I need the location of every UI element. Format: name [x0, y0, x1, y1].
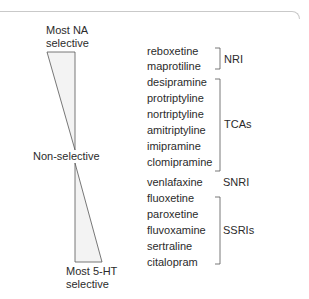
- class-label-snri: SNRI: [223, 176, 249, 189]
- class-label-ssris: SSRIs: [223, 224, 254, 237]
- drug-item: amitriptyline: [147, 124, 206, 137]
- ssri-bracket: [215, 197, 220, 264]
- non-selective-label: Non-selective: [33, 150, 100, 163]
- drug-item: nortriptyline: [147, 108, 204, 121]
- drug-item: fluvoxamine: [147, 224, 206, 237]
- drug-item: desipramine: [147, 76, 207, 89]
- nri-bracket: [215, 48, 220, 69]
- drug-item: sertraline: [147, 240, 192, 253]
- drug-item: protriptyline: [147, 92, 204, 105]
- drug-item: fluoxetine: [147, 192, 194, 205]
- drug-item: maprotiline: [147, 60, 201, 73]
- drug-item: venlafaxine: [147, 176, 203, 189]
- drug-item: citalopram: [147, 256, 198, 269]
- most-5ht-line2: selective: [66, 278, 117, 291]
- class-label-tcas: TCAs: [224, 118, 252, 131]
- drug-item: paroxetine: [147, 208, 198, 221]
- most-5ht-label: Most 5-HT selective: [66, 265, 117, 291]
- drug-item: reboxetine: [147, 45, 198, 58]
- tca-bracket: [215, 79, 220, 171]
- na-selectivity-triangle: [47, 52, 75, 150]
- drug-item: clomipramine: [147, 156, 212, 169]
- 5ht-selectivity-triangle: [75, 163, 102, 262]
- class-label-nri: NRI: [224, 53, 243, 66]
- drug-item: imipramine: [147, 140, 201, 153]
- most-5ht-line1: Most 5-HT: [66, 265, 117, 278]
